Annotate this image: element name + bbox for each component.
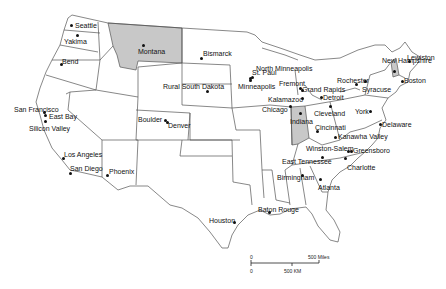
- city-dot: [44, 114, 47, 117]
- city-label: Rural South Dakota: [163, 83, 224, 91]
- city-label: Lewiston: [407, 54, 435, 62]
- city-dot: [44, 120, 47, 123]
- city-dot: [289, 105, 292, 108]
- city-label: Grand Rapids: [302, 86, 345, 94]
- city-dot: [344, 157, 347, 160]
- city-dot: [364, 80, 367, 83]
- city-label: Atlanta: [318, 184, 340, 192]
- city-dot: [299, 112, 302, 115]
- scale-km-end: 500 KM: [284, 268, 301, 274]
- city-label: Montana: [138, 48, 165, 56]
- state-borders-central: [180, 28, 290, 205]
- city-label: Charlotte: [347, 164, 375, 172]
- city-label: Denver: [168, 122, 191, 130]
- city-dot: [142, 44, 145, 47]
- city-label: Yakima: [64, 38, 87, 46]
- city-label: Detroit: [323, 94, 344, 102]
- state-montana: [108, 23, 182, 70]
- city-label: Seattle: [75, 22, 97, 30]
- city-label: Minneapolis: [238, 83, 275, 91]
- scale-miles-start: 0: [250, 254, 253, 260]
- city-dot: [249, 79, 252, 82]
- city-label: Birmingham: [277, 174, 314, 182]
- city-dot: [329, 105, 332, 108]
- city-label: San Diego: [70, 165, 103, 173]
- scale-miles-end: 500 Miles: [308, 254, 329, 260]
- scale-km-start: 0: [250, 268, 253, 274]
- city-label: Cincinnati: [315, 124, 346, 132]
- city-dot: [393, 70, 396, 73]
- city-label: Chicago: [262, 106, 288, 114]
- city-label: St. Paul: [252, 69, 277, 77]
- city-label: Houston: [209, 217, 235, 225]
- city-label: East Tennessee: [282, 158, 332, 166]
- city-label: Indiana: [290, 118, 313, 126]
- city-label: Delaware: [382, 121, 412, 129]
- city-label: Silicon Valley: [29, 125, 70, 133]
- city-label: York: [355, 108, 369, 116]
- city-dot: [334, 136, 337, 139]
- city-label: Cleveland: [314, 110, 345, 118]
- city-label: Boulder: [138, 116, 162, 124]
- city-label: Kanawha Valley: [338, 133, 388, 141]
- city-label: Kalamazoo: [268, 96, 303, 104]
- city-label: Baton Rouge: [258, 206, 299, 214]
- city-label: Phoenix: [109, 168, 134, 176]
- scale-bar: [251, 260, 319, 266]
- city-label: Winston-Salem: [306, 145, 353, 153]
- city-label: Bismarck: [203, 50, 232, 58]
- city-label: Syracuse: [362, 86, 391, 94]
- city-label: Greensboro: [353, 147, 390, 155]
- city-label: Bend: [62, 58, 78, 66]
- city-dot: [70, 24, 73, 27]
- city-label: Boston: [404, 77, 426, 85]
- city-label: Los Angeles: [64, 151, 102, 159]
- city-dot: [319, 178, 322, 181]
- city-dot: [76, 34, 79, 37]
- city-label: East Bay: [49, 113, 77, 121]
